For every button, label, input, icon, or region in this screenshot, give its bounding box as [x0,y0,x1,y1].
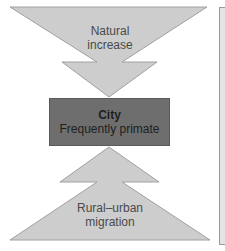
side-panel [219,7,225,245]
natural-increase-label: Natural increase [60,24,160,52]
natural-increase-line2: increase [60,38,160,52]
city-title: City [50,108,169,122]
natural-increase-arrow [10,7,207,97]
rural-urban-migration-line1: Rural–urban [60,201,160,215]
rural-urban-migration-label: Rural–urban migration [60,201,160,229]
city-box: City Frequently primate [49,98,170,146]
city-subtitle: Frequently primate [50,122,169,136]
rural-urban-migration-line2: migration [60,215,160,229]
natural-increase-line1: Natural [60,24,160,38]
